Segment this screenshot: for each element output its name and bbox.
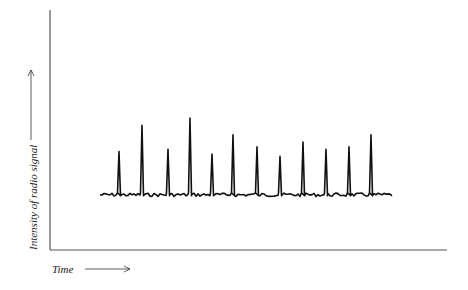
chart-canvas [0, 0, 468, 290]
y-label-arrow-icon [28, 70, 34, 140]
x-label-arrow-icon [85, 266, 130, 272]
signal-trace [100, 118, 392, 197]
y-axis-label: Intensity of radio signal [27, 145, 39, 250]
x-axis-label: Time [52, 263, 73, 275]
